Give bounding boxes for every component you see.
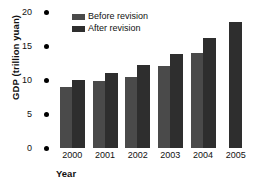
y-tick-label: 20 [12,7,32,17]
bar-2003-after [170,54,183,148]
y-axis-title: GDP (trillion yuan) [10,0,21,117]
x-axis-title: Year [56,168,116,179]
x-tick-label-2004: 2004 [187,150,220,160]
legend-label: After revision [88,23,141,34]
bar-group-2003 [158,12,183,148]
y-tick-label: 10 [12,75,32,85]
x-tick-label-2001: 2001 [89,150,122,160]
bar-group-2004 [191,12,216,148]
gdp-bar-chart: GDP (trillion yuan) 05101520 Before revi… [0,0,255,187]
y-tick-dot-icon [44,78,49,83]
x-tick-label-2003: 2003 [154,150,187,160]
y-tick-label: 0 [12,143,32,153]
x-tick-label-2000: 2000 [56,150,89,160]
y-tick-dot-icon [44,146,49,151]
bar-2001-after [105,73,118,148]
legend-item-before-revision: Before revision [72,11,148,22]
y-tick-dot-icon [44,112,49,117]
bar-2005-after [229,22,242,148]
legend-item-after-revision: After revision [72,23,148,34]
x-tick-label-2005: 2005 [219,150,252,160]
y-tick-label: 15 [12,41,32,51]
bar-2002-after [137,65,150,148]
x-axis-tick-labels: 200020012002200320042005 [56,150,252,162]
bar-2004-after [203,38,216,148]
legend-swatch-icon [72,26,85,32]
y-tick-label: 5 [12,109,32,119]
bar-group-2005 [223,12,248,148]
y-tick-dot-icon [44,44,49,49]
bar-2000-after [72,80,85,148]
legend-label: Before revision [88,11,148,22]
y-tick-dot-icon [44,10,49,15]
chart-legend: Before revisionAfter revision [72,11,148,35]
x-tick-label-2002: 2002 [121,150,154,160]
legend-swatch-icon [72,14,85,20]
